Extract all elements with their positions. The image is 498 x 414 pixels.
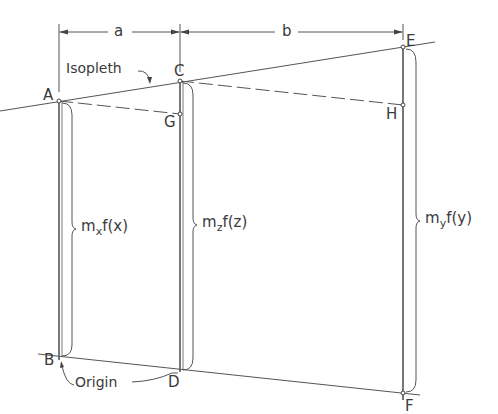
dashed-line-ch <box>180 81 403 105</box>
brace-x <box>62 103 76 356</box>
point-h <box>401 103 405 107</box>
isopleth-label: Isopleth <box>66 61 122 75</box>
brace-label-y: myf(y) <box>425 211 472 226</box>
point-label-f: F <box>405 399 414 414</box>
origin-leader-b <box>62 366 74 385</box>
point-a <box>57 99 61 103</box>
brace-y <box>406 49 420 392</box>
isopleth-line <box>0 42 435 111</box>
point-label-h: H <box>386 107 397 122</box>
dashed-line-ag <box>59 101 180 114</box>
dimension-label-a: a <box>114 24 123 39</box>
dimension-label-b: b <box>282 24 292 39</box>
point-label-g: G <box>164 115 176 130</box>
nomograph-diagram: a b E C A G H B D F Isopleth Origin mxf(… <box>0 0 498 414</box>
point-e <box>401 45 405 49</box>
point-label-c: C <box>174 64 184 79</box>
brace-label-z: mzf(z) <box>202 215 247 230</box>
point-label-d: D <box>168 375 180 390</box>
point-f <box>401 391 405 395</box>
point-label-a: A <box>43 88 53 103</box>
brace-z <box>183 83 197 370</box>
point-g <box>178 112 182 116</box>
brace-label-x: mxf(x) <box>81 219 128 234</box>
isopleth-leader <box>138 71 150 82</box>
point-label-b: B <box>44 353 54 368</box>
origin-label: Origin <box>75 375 117 389</box>
point-label-e: E <box>406 34 415 49</box>
